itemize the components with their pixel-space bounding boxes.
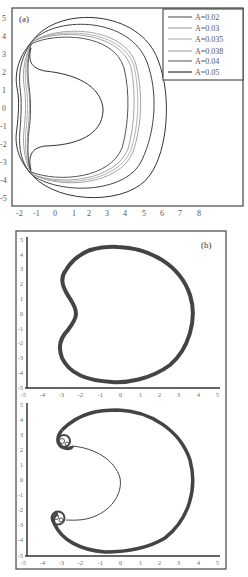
svg-text:-3: -3: [59, 560, 64, 566]
svg-text:-1: -1: [33, 209, 40, 218]
svg-text:-4: -4: [40, 392, 45, 398]
svg-text:4: 4: [20, 252, 23, 258]
svg-text:3: 3: [20, 432, 23, 438]
svg-text:-4: -4: [18, 370, 23, 376]
figure: (a) 5 4 3 2 1 0 -1 -2 -3 -4 -5 -2 -1 0 1…: [0, 0, 248, 577]
kidney-curve: [60, 247, 193, 382]
svg-text:5: 5: [216, 560, 219, 566]
svg-text:6: 6: [160, 209, 164, 218]
svg-text:1: 1: [139, 560, 142, 566]
curve-A0.035: [25, 33, 138, 181]
svg-text:5: 5: [20, 402, 23, 408]
panel-b-top-axes: [25, 237, 220, 388]
panel-b-bottom-y-axis: 5 4 3 2 1 0 -1 -2 -3 -4 -5: [18, 402, 23, 559]
legend-label: A=0.038: [195, 47, 223, 56]
svg-text:-3: -3: [18, 522, 23, 528]
svg-text:-1: -1: [18, 326, 23, 332]
svg-text:2: 2: [158, 392, 161, 398]
svg-text:7: 7: [178, 209, 182, 218]
svg-text:3: 3: [20, 266, 23, 272]
panel-a-x-axis: -2 -1 0 1 2 3 4 5 6 7 8: [16, 209, 201, 218]
svg-text:5: 5: [142, 209, 146, 218]
legend-label: A=0.04: [195, 57, 219, 66]
svg-text:-4: -4: [18, 537, 23, 543]
panel-a-curves: [16, 17, 166, 197]
svg-text:-1: -1: [18, 492, 23, 498]
svg-text:0: 0: [2, 104, 6, 113]
legend-label: A=0.02: [195, 13, 219, 22]
svg-text:3: 3: [2, 50, 6, 59]
legend-label: A=0.035: [195, 35, 223, 44]
svg-text:2: 2: [87, 209, 91, 218]
svg-text:1: 1: [2, 86, 6, 95]
svg-text:-2: -2: [16, 209, 23, 218]
svg-text:8: 8: [197, 209, 201, 218]
svg-text:-5: -5: [18, 385, 23, 391]
svg-text:1: 1: [20, 296, 23, 302]
crescent-curve: [52, 410, 193, 552]
svg-text:-3: -3: [18, 355, 23, 361]
curve-A0.02: [28, 37, 128, 177]
svg-text:-5: -5: [21, 560, 26, 566]
curve-A0.05: [16, 17, 166, 197]
svg-text:2: 2: [158, 560, 161, 566]
panel-b-frame: [16, 231, 226, 569]
panel-a: (a) 5 4 3 2 1 0 -1 -2 -3 -4 -5 -2 -1 0 1…: [0, 8, 243, 218]
svg-text:5: 5: [20, 237, 23, 243]
svg-text:2: 2: [20, 447, 23, 453]
svg-text:2: 2: [20, 281, 23, 287]
legend-label: A=0.03: [195, 24, 219, 33]
svg-text:-2: -2: [18, 340, 23, 346]
curve-inner-arc: [30, 48, 103, 170]
svg-text:4: 4: [197, 392, 200, 398]
svg-text:1: 1: [139, 392, 142, 398]
svg-text:0: 0: [20, 477, 23, 483]
svg-text:0: 0: [119, 560, 122, 566]
panel-b-bottom-x-axis: -5 -4 -3 -2 -1 0 1 2 3 4 5: [21, 560, 219, 566]
svg-text:-2: -2: [78, 392, 83, 398]
legend-label: A=0.05: [195, 68, 219, 77]
svg-text:5: 5: [216, 392, 219, 398]
panel-b-top-y-axis: 5 4 3 2 1 0 -1 -2 -3 -4 -5: [18, 237, 23, 391]
svg-text:-2: -2: [0, 140, 7, 149]
svg-text:-5: -5: [18, 553, 23, 559]
svg-text:1: 1: [72, 209, 76, 218]
svg-text:-5: -5: [0, 194, 7, 203]
panel-b-bottom-axes: [25, 403, 220, 556]
svg-text:4: 4: [2, 32, 6, 41]
svg-text:-2: -2: [78, 560, 83, 566]
svg-text:3: 3: [105, 209, 109, 218]
svg-text:4: 4: [20, 417, 23, 423]
panel-a-y-axis: 5 4 3 2 1 0 -1 -2 -3 -4 -5: [0, 14, 7, 203]
svg-text:-4: -4: [0, 176, 7, 185]
svg-text:2: 2: [2, 68, 6, 77]
svg-text:-1: -1: [98, 392, 103, 398]
svg-text:0: 0: [119, 392, 122, 398]
svg-text:0: 0: [53, 209, 57, 218]
svg-text:5: 5: [2, 14, 6, 23]
panel-b-label: (b): [201, 240, 212, 250]
svg-text:0: 0: [20, 311, 23, 317]
svg-text:3: 3: [177, 560, 180, 566]
svg-text:3: 3: [177, 392, 180, 398]
panel-b: (b) 5 4 3 2 1 0 -1 -2 -3 -4 -5 -5 -4 -3 …: [16, 231, 226, 569]
panel-b-top-x-axis: -5 -4 -3 -2 -1 0 1 2 3 4 5: [21, 392, 219, 398]
svg-text:-5: -5: [21, 392, 26, 398]
panel-a-legend: A=0.02 A=0.03 A=0.035 A=0.038 A=0.04 A=0…: [163, 9, 243, 80]
svg-text:4: 4: [123, 209, 127, 218]
svg-text:1: 1: [20, 462, 23, 468]
svg-text:-2: -2: [18, 507, 23, 513]
panel-a-label: (a): [19, 14, 29, 24]
svg-text:-1: -1: [98, 560, 103, 566]
svg-text:-4: -4: [40, 560, 45, 566]
svg-text:-1: -1: [0, 122, 7, 131]
svg-text:4: 4: [197, 560, 200, 566]
svg-text:-3: -3: [59, 392, 64, 398]
svg-text:-3: -3: [0, 158, 7, 167]
